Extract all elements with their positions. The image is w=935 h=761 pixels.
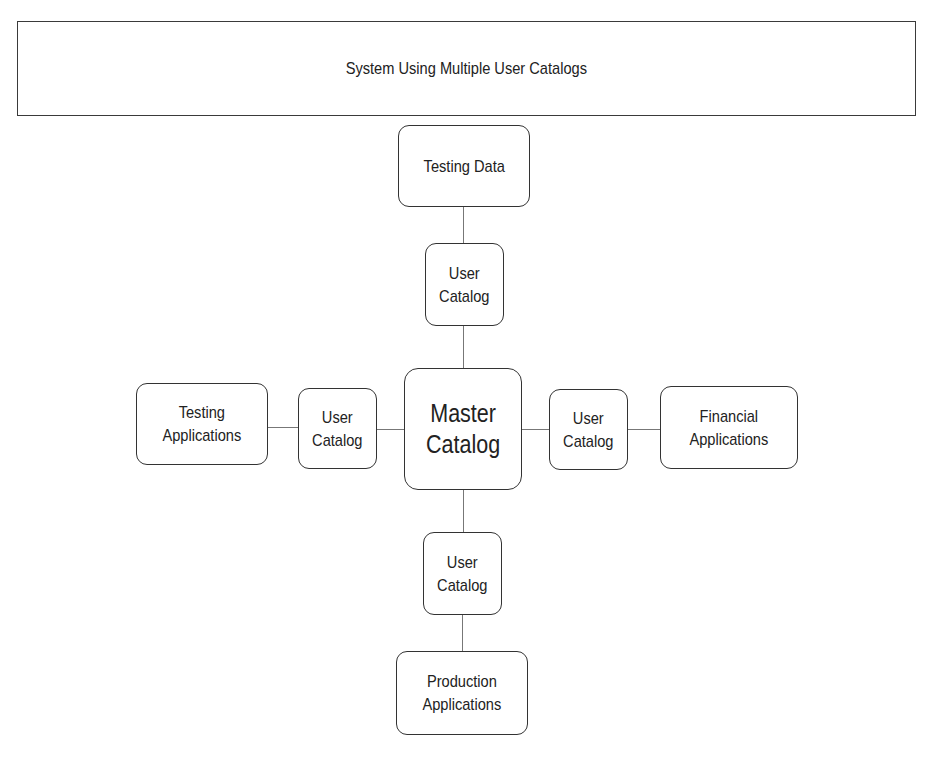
node-label: User Catalog	[312, 406, 362, 452]
edge-testing-data-to-user-catalog-top	[463, 206, 464, 243]
edge-user-catalog-left-to-master	[377, 429, 404, 430]
node-label: Testing Data	[423, 155, 504, 178]
node-label: User Catalog	[563, 407, 613, 453]
diagram-title: System Using Multiple User Catalogs	[346, 59, 587, 79]
node-label: Production Applications	[423, 670, 502, 716]
diagram-title-box: System Using Multiple User Catalogs	[17, 21, 916, 116]
node-user-catalog-right: User Catalog	[549, 389, 628, 470]
node-label: Master Catalog	[426, 398, 500, 460]
edge-user-catalog-top-to-master	[463, 326, 464, 368]
node-user-catalog-left: User Catalog	[298, 388, 377, 469]
node-master-catalog: Master Catalog	[404, 368, 522, 490]
node-production-applications: Production Applications	[396, 651, 528, 735]
node-user-catalog-top: User Catalog	[425, 243, 504, 326]
node-label: Financial Applications	[690, 405, 769, 451]
node-label: Testing Applications	[163, 401, 242, 447]
edge-testing-applications-to-user-catalog-left	[268, 427, 298, 428]
edge-master-to-user-catalog-right	[522, 429, 549, 430]
node-testing-applications: Testing Applications	[136, 383, 268, 465]
node-label: User Catalog	[437, 551, 487, 597]
node-label: User Catalog	[439, 262, 489, 308]
edge-master-to-user-catalog-bottom	[463, 490, 464, 532]
edge-user-catalog-right-to-financial-applications	[628, 429, 660, 430]
node-financial-applications: Financial Applications	[660, 386, 798, 469]
node-testing-data: Testing Data	[398, 125, 530, 207]
node-user-catalog-bottom: User Catalog	[423, 532, 502, 615]
edge-user-catalog-bottom-to-production-applications	[462, 615, 463, 651]
